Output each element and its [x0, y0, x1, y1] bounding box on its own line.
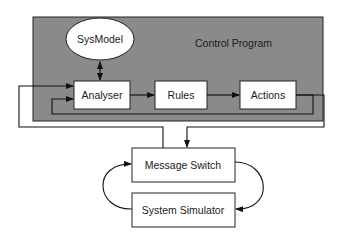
system-simulator-label: System Simulator: [142, 204, 225, 216]
sysmodel-label: SysModel: [77, 33, 123, 45]
rules-node: Rules: [155, 81, 207, 109]
messageswitch-simulator-edge: [235, 162, 263, 209]
rules-label: Rules: [168, 89, 195, 101]
message-switch-node: Message Switch: [132, 148, 235, 182]
analyser-node: Analyser: [74, 81, 130, 109]
simulator-messageswitch-edge: [103, 164, 132, 209]
architecture-diagram: Control Program SysModel Analyser Rules …: [0, 0, 363, 244]
actions-label: Actions: [251, 89, 285, 101]
message-switch-label: Message Switch: [145, 159, 222, 171]
sysmodel-node: SysModel: [66, 18, 134, 60]
system-simulator-node: System Simulator: [132, 193, 235, 227]
analyser-label: Analyser: [82, 89, 123, 101]
control-program-label: Control Program: [195, 37, 272, 49]
actions-node: Actions: [240, 81, 296, 109]
